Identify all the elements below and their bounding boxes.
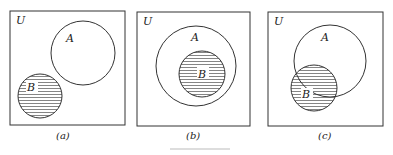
set-b-label-c: B — [301, 88, 310, 101]
set-b-label-b: B — [197, 68, 206, 81]
caption-b: (b) — [186, 130, 200, 141]
set-b-circle-c — [291, 65, 337, 111]
venn-c: U A B (c) — [268, 12, 383, 141]
venn-diagrams: U A B (a) U A B (b) U A B (c) — [0, 0, 393, 155]
set-a-label-a: A — [65, 32, 74, 45]
set-b-label-a: B — [26, 81, 35, 94]
caption-a: (a) — [56, 130, 70, 141]
set-a-circle-a — [51, 21, 115, 85]
universe-label-b: U — [143, 15, 153, 28]
figure-caption-faint — [170, 148, 230, 150]
venn-a: U A B (a) — [10, 11, 125, 141]
universe-label-c: U — [274, 15, 284, 28]
universe-label-a: U — [16, 14, 26, 27]
set-a-label-b: A — [190, 31, 199, 44]
set-a-label-c: A — [320, 31, 329, 44]
venn-b: U A B (b) — [137, 12, 250, 141]
caption-c: (c) — [318, 130, 332, 141]
set-b-circle-a — [18, 74, 62, 118]
